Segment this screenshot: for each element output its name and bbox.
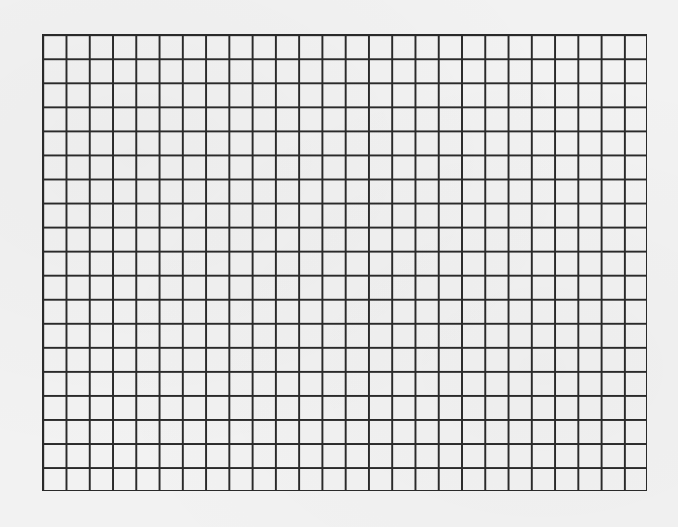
blank-grid — [42, 34, 647, 491]
